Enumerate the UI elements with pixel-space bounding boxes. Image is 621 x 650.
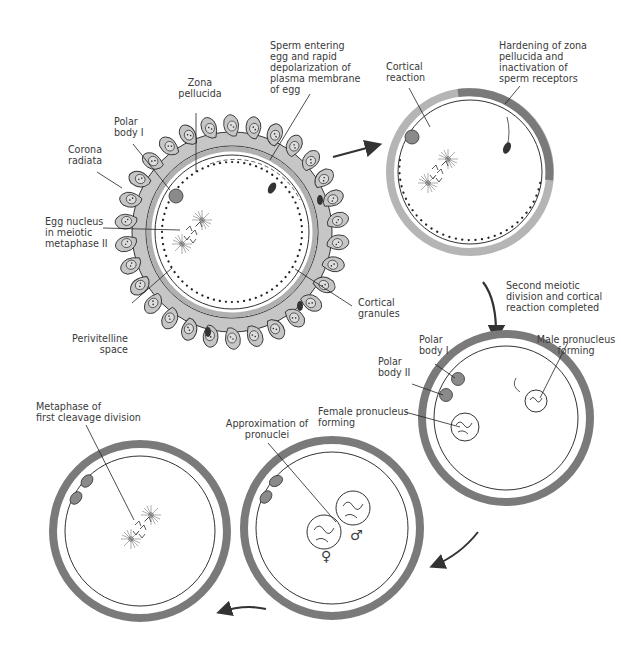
arrow-1-to-2 (333, 145, 378, 157)
female-symbol: ♀ (321, 551, 331, 562)
plasma-membrane-2 (398, 100, 542, 244)
label-polar-body-1-stage3: Polar body I (419, 334, 449, 356)
female-pronucleus-4 (307, 515, 341, 549)
label-male-pronucleus: Male pronucleus forming (536, 334, 616, 356)
label-female-pronucleus: Female pronucleus forming (318, 406, 409, 428)
fertilization-diagram: Sperm entering egg and rapid depolarizat… (0, 0, 621, 650)
label-polar-body-2: Polar body II (378, 356, 410, 378)
arrow-2-to-3 (483, 282, 496, 338)
label-sperm-entering: Sperm entering egg and rapid depolarizat… (270, 40, 360, 95)
polar-body-1-stage3 (452, 373, 465, 386)
label-metaphase-first-cleavage: Metaphase of first cleavage division (36, 401, 141, 423)
label-second-meiotic: Second meiotic division and cortical rea… (506, 280, 602, 313)
polar-body-1 (169, 189, 183, 203)
label-cortical-reaction: Cortical reaction (386, 61, 425, 83)
sperm-4 (205, 327, 211, 337)
male-pronucleus (525, 390, 547, 412)
label-perivitelline-space: Perivitelline space (70, 333, 128, 355)
label-egg-nucleus: Egg nucleus in meiotic metaphase II (45, 216, 108, 249)
plasma-membrane (155, 155, 309, 309)
label-corona-radiata: Corona radiata (62, 144, 108, 166)
polar-body-2-stage3 (440, 389, 453, 402)
sperm-2 (317, 195, 323, 205)
arrow-4-to-5 (220, 607, 266, 612)
stage-5-egg (53, 425, 227, 618)
stage-4-egg (244, 440, 420, 616)
polar-body-1-stage2 (405, 130, 419, 144)
sperm-3 (297, 301, 303, 311)
label-hardening: Hardening of zona pellucida and inactiva… (499, 40, 587, 84)
arrow-3-to-4 (433, 532, 478, 566)
stage-3-egg (405, 334, 590, 502)
label-zona-pellucida: Zona pellucida (168, 77, 232, 99)
male-symbol: ♂ (350, 530, 363, 541)
diagram-canvas (0, 0, 621, 650)
male-pronucleus-4 (336, 491, 370, 525)
female-pronucleus (451, 413, 479, 441)
label-cortical-granules: Cortical granules (358, 297, 400, 319)
label-polar-body-1: Polar body I (114, 116, 144, 138)
stage-2-egg (390, 86, 550, 252)
label-approximation: Approximation of pronuclei (222, 418, 312, 440)
